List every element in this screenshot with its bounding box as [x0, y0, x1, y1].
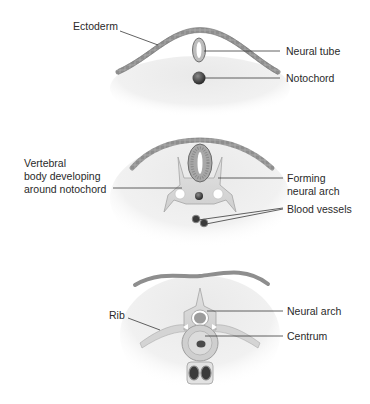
label-ectoderm: Ectoderm: [73, 20, 118, 33]
panel-stage-2: [110, 140, 290, 253]
mesoderm-tissue: [110, 56, 290, 120]
label-blood-vessels: Blood vessels: [287, 203, 352, 216]
blood-vessel: [201, 366, 211, 380]
label-centrum: Centrum: [287, 330, 327, 343]
embryo-diagram: [0, 0, 370, 404]
blood-vessel: [200, 219, 208, 227]
label-vertebral-body-line3: around notochord: [24, 183, 106, 196]
label-vertebral-body-line2: body developing: [24, 170, 100, 183]
blood-vessel: [189, 366, 199, 380]
spinal-cord: [194, 313, 206, 324]
label-forming-neural-arch-line2: neural arch: [287, 185, 340, 198]
label-rib: Rib: [109, 309, 125, 322]
blood-vessel: [192, 215, 200, 223]
notochord: [193, 72, 206, 85]
notochord: [195, 192, 203, 200]
label-forming-neural-arch-line1: Forming: [287, 172, 326, 185]
label-notochord: Notochord: [286, 72, 334, 85]
notochord-remnant: [197, 341, 206, 348]
label-vertebral-body-line1: Vertebral: [24, 157, 66, 170]
panel-stage-3: [120, 273, 283, 396]
label-neural-tube: Neural tube: [286, 45, 340, 58]
label-neural-arch: Neural arch: [287, 305, 341, 318]
panel-stage-1: [110, 28, 290, 121]
